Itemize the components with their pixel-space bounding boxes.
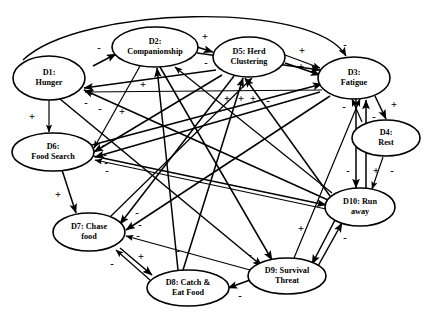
edge-sign-d6-d3: -	[266, 95, 270, 106]
edge-sign-d6-d10: -	[320, 179, 324, 190]
edge-sign-d10-d2: -	[298, 83, 302, 94]
node-d7[interactable]: D7: Chasefood	[53, 213, 125, 251]
edge-sign-d6-d7: +	[55, 189, 61, 200]
edge-sign-d3-d7: -	[138, 219, 142, 230]
edge-sign-d10-d9: +	[298, 223, 304, 234]
edge-sign-d4-d10: -	[390, 165, 394, 176]
node-d10[interactable]: D10: Runaway	[325, 188, 395, 226]
node-d2-label-line2: Companionship	[127, 47, 183, 56]
node-d5-label-line2: Clustering	[231, 57, 269, 66]
edge-sign-d8-d2: +	[140, 79, 146, 90]
node-d8[interactable]: D8: Catch &Eat Food	[147, 270, 229, 306]
node-d4-label-line2: Rest	[378, 138, 394, 147]
node-d9-label-line2: Threat	[275, 276, 299, 285]
node-d4-label-line1: D4:	[380, 128, 393, 137]
edge-sign-d9-d7: -	[136, 230, 140, 241]
node-d8-label-line1: D8: Catch &	[166, 278, 211, 287]
node-d5[interactable]: D5: HerdClustering	[213, 37, 285, 77]
edge-sign-d7-d8: +	[138, 251, 144, 262]
node-d1-label-line1: D1:	[43, 68, 56, 77]
edge-sign-d1-d9: -	[176, 245, 180, 256]
edge-sign-d8-d7: -	[110, 258, 114, 269]
node-d7-label-line1: D7: Chase	[71, 222, 108, 231]
node-d9[interactable]: D9: SurvivalThreat	[248, 258, 326, 294]
edge-sign-d2-d5: +	[202, 31, 208, 42]
edge-d8-to-d7	[116, 250, 150, 280]
edge-d5-to-d1	[84, 70, 216, 88]
edge-d4-to-d3	[352, 99, 362, 122]
edge-sign-d5-d1: -	[84, 97, 88, 108]
edge-sign-d10-d6: -	[105, 165, 109, 176]
node-d3[interactable]: D3:Fatigue	[318, 57, 390, 99]
edge-d8-to-d2	[157, 68, 178, 270]
edge-sign-d4-d3: -	[342, 101, 346, 112]
edge-sign-d9-d10: -	[343, 232, 347, 243]
node-d1[interactable]: D1:Hunger	[13, 56, 85, 100]
edge-sign-d5-d7: -	[135, 207, 139, 218]
edge-sign-d3-d10: -	[346, 165, 350, 176]
node-d1-label-line2: Hunger	[36, 78, 63, 87]
edge-d3-to-d4	[375, 96, 386, 119]
edge-sign-d7-d5: +	[250, 93, 256, 104]
edge-sign-d9-d3: -	[372, 111, 376, 122]
edge-d2-to-d5	[197, 47, 213, 52]
node-d2[interactable]: D2:Companionship	[112, 27, 198, 67]
edge-sign-d3-d1: -	[98, 103, 102, 114]
node-d2-label-line1: D2:	[149, 37, 162, 46]
edge-sign-d2-d9: -	[248, 249, 252, 260]
node-d10-label-line2: away	[351, 207, 370, 216]
causal-loop-diagram: D1:HungerD2:CompanionshipD5: HerdCluster…	[0, 0, 426, 321]
edge-d1-to-d2	[93, 54, 116, 66]
node-d7-label-line2: food	[81, 232, 97, 241]
node-d4[interactable]: D4:Rest	[352, 120, 420, 156]
node-d6-label-line2: Food Search	[31, 152, 75, 161]
edge-sign-d1-d2: -	[97, 42, 101, 53]
edge-d3-to-d7	[126, 96, 330, 230]
edge-sign-d8-d5: +	[238, 93, 244, 104]
edge-sign-d3-d4: +	[391, 99, 397, 110]
edge-sign-d9-d8: -	[238, 290, 242, 301]
edge-d10-to-d6	[95, 160, 326, 209]
node-d3-label-line1: D3:	[348, 68, 361, 77]
edge-sign-d2-d3: -	[204, 57, 208, 68]
edge-sign-d10-d5: +	[224, 93, 230, 104]
node-d8-label-line2: Eat Food	[172, 288, 205, 297]
edge-d6-to-d7	[62, 170, 76, 213]
edge-sign-d1-d6: +	[29, 111, 35, 122]
edge-d7-to-d8	[120, 248, 152, 275]
edge-sign-d10-d3: +	[373, 165, 379, 176]
edge-d6-to-d10	[93, 156, 326, 205]
diagram-canvas: D1:HungerD2:CompanionshipD5: HerdCluster…	[0, 0, 426, 321]
edge-sign-d10-d1: +	[119, 106, 125, 117]
node-d3-label-line2: Fatigue	[341, 78, 368, 87]
node-d6-label-line1: D6:	[47, 142, 60, 151]
node-d6[interactable]: D6:Food Search	[12, 133, 94, 171]
edge-sign-d5-d3: +	[299, 45, 305, 56]
node-d9-label-line1: D9: Survival	[265, 266, 310, 275]
node-d10-label-line1: D10: Run	[343, 197, 377, 206]
edge-d10-to-d5	[245, 78, 330, 196]
edge-sign-d1-d3: -	[343, 39, 347, 50]
node-d5-label-line1: D5: Herd	[233, 47, 266, 56]
edge-d9-to-d8	[228, 280, 250, 288]
edge-sign-d5-d3: +	[298, 61, 304, 72]
